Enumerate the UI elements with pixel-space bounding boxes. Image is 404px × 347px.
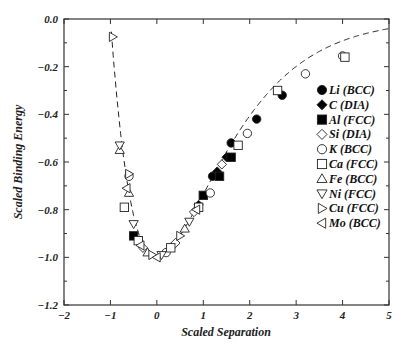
legend-item: K (BCC) — [317, 142, 372, 156]
legend-label: Ni (FCC) — [328, 187, 376, 201]
x-axis-label: Scaled Separation — [181, 325, 271, 339]
x-tick-label: 1 — [201, 309, 207, 321]
legend-label: Cu (FCC) — [329, 201, 379, 215]
legend-item: Mo (BCC) — [317, 216, 381, 230]
series-ca — [120, 53, 349, 252]
legend-item: Ni (FCC) — [317, 187, 376, 201]
x-tick-label: 2 — [246, 309, 253, 321]
y-tick-label: −1.2 — [38, 299, 59, 311]
legend-item: Si (DIA) — [317, 127, 371, 141]
series-c — [194, 153, 231, 210]
legend-label: Mo (BCC) — [328, 216, 381, 230]
legend-label: Li (BCC) — [328, 83, 375, 97]
legend-label: Ca (FCC) — [329, 157, 378, 171]
x-tick-label: 3 — [292, 309, 299, 321]
x-tick-label: 5 — [386, 309, 392, 321]
legend-label: Fe (BCC) — [328, 172, 377, 186]
y-axis-label: Scaled Binding Energy — [11, 104, 25, 219]
legend-item: C (DIA) — [317, 98, 369, 112]
x-tick-label: −1 — [104, 309, 116, 321]
legend-item: Cu (FCC) — [318, 201, 378, 215]
x-tick-label: −2 — [58, 309, 71, 321]
y-tick-label: −0.4 — [38, 108, 59, 120]
x-tick-label: 4 — [339, 309, 346, 321]
series-ni — [115, 142, 194, 260]
y-tick-label: −0.2 — [38, 61, 59, 73]
legend: Li (BCC)C (DIA)Al (FCC)Si (DIA)K (BCC)Ca… — [317, 83, 381, 230]
binding-energy-chart: −2−10123450.0−0.2−0.4−0.6−0.8−1.0−1.2 Li… — [0, 0, 404, 347]
x-tick-label: 0 — [154, 309, 160, 321]
legend-item: Al (FCC) — [317, 113, 375, 127]
y-tick-label: −0.8 — [38, 204, 59, 216]
y-tick-label: 0.0 — [44, 13, 58, 25]
legend-label: K (BCC) — [328, 142, 372, 156]
legend-item: Ca (FCC) — [317, 157, 378, 171]
y-tick-label: −0.6 — [38, 156, 59, 168]
y-tick-label: −1.0 — [38, 251, 59, 263]
legend-item: Fe (BCC) — [317, 172, 377, 186]
legend-label: Si (DIA) — [329, 127, 371, 141]
legend-item: Li (BCC) — [317, 83, 374, 97]
legend-label: C (DIA) — [329, 98, 369, 112]
legend-label: Al (FCC) — [328, 113, 375, 127]
data-points — [109, 32, 349, 262]
